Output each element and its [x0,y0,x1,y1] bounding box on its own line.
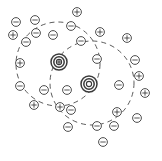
macroion-marker [51,54,67,70]
anion-ion [131,56,140,65]
figure-root [0,0,162,161]
cation-ion [141,89,150,98]
anion-ion [93,122,102,131]
anion-ion [110,122,119,131]
macroion-marker [81,76,97,92]
ion-distribution-diagram [0,0,162,161]
cation-ion [16,59,25,68]
anion-ion [31,16,40,25]
cation-ion [56,103,65,112]
cation-ion [135,72,144,81]
ion-layer [9,8,150,147]
anion-ion [99,138,108,147]
anion-ion [40,86,49,95]
anion-ion [93,55,102,64]
anion-ion [67,106,76,115]
anion-ion [16,82,25,91]
macroion-layer [51,54,97,92]
anion-ion [67,22,76,31]
cation-ion [30,101,39,110]
cation-ion [113,108,122,117]
cation-ion [123,34,132,43]
anion-ion [22,38,31,47]
cation-ion [73,8,82,17]
anion-ion [133,114,142,123]
anion-ion [64,123,73,132]
anion-ion [32,29,41,38]
anion-ion [63,86,72,95]
anion-ion [77,37,86,46]
cation-ion [9,31,18,40]
anion-ion [12,18,21,27]
cation-ion [96,28,105,37]
anion-ion [49,31,58,40]
anion-ion [115,81,124,90]
